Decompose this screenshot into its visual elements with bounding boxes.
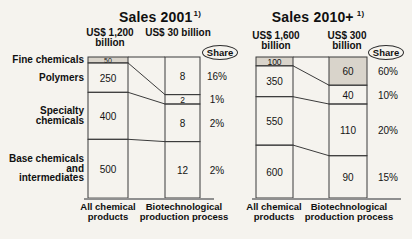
- share-value: 60%: [378, 66, 398, 77]
- share-value: 15%: [378, 172, 398, 183]
- row-label-line: Fine chemicals: [12, 55, 84, 65]
- row-label-polymers: Polymers: [39, 73, 84, 83]
- segment-value: 550: [266, 116, 283, 127]
- share-value: 16%: [207, 71, 227, 82]
- header-line-2: billion: [64, 38, 156, 48]
- header-line-1: US$ 30 billion: [132, 28, 224, 38]
- row-label-specialty-chemicals: Specialtychemicals: [36, 106, 84, 125]
- flow-connector-line: [128, 139, 165, 141]
- axis-label-line-2: production process: [289, 212, 409, 222]
- segment-value: 8: [180, 118, 186, 129]
- chart-title-text: Sales 2001: [119, 9, 193, 25]
- segment-value: 400: [100, 111, 117, 122]
- share-value: 2%: [210, 165, 225, 176]
- segment-value: 250: [100, 73, 117, 84]
- segment-value: 600: [266, 167, 283, 178]
- flow-connector-line: [293, 66, 329, 85]
- segment-value: 90: [342, 172, 354, 183]
- share-value: 10%: [378, 90, 398, 101]
- share-badge-2010: Share: [368, 45, 404, 60]
- row-label-line: Polymers: [39, 73, 84, 83]
- header-biotech-2001: US$ 30 billion: [132, 28, 224, 38]
- segment-value: 40: [342, 90, 354, 101]
- row-label-line: chemicals: [36, 116, 84, 126]
- share-value: 1%: [210, 94, 225, 105]
- segment-value: 8: [180, 71, 186, 82]
- chart-title-text: Sales 2010+: [272, 9, 354, 25]
- row-label-fine-chemicals: Fine chemicals: [12, 55, 84, 65]
- footnote-marker: 1): [357, 9, 365, 18]
- row-label-base-chemicals-and-intermediates: Base chemicalsandintermediates: [9, 154, 84, 183]
- row-label-line: intermediates: [9, 173, 84, 183]
- segment-value: 500: [100, 164, 117, 175]
- share-value: 20%: [378, 125, 398, 136]
- flow-connector-line: [128, 63, 165, 95]
- chart-title-2001: Sales 20011): [119, 9, 201, 25]
- flow-connector-line: [293, 145, 329, 156]
- flow-connector-line: [293, 97, 329, 104]
- segment-value: 12: [177, 165, 189, 176]
- share-badge-label: Share: [373, 47, 399, 58]
- footnote-marker: 1): [194, 9, 202, 18]
- chart-canvas: 502504005008281216%1%2%2%100350550600604…: [0, 0, 412, 239]
- segment-value: 110: [340, 125, 356, 136]
- segment-value: 60: [342, 66, 354, 77]
- chart-title-2010: Sales 2010+1): [272, 9, 365, 25]
- share-value: 2%: [210, 118, 225, 129]
- axis-label-biotech-2010: Biotechnological production process: [289, 202, 409, 222]
- segment-value: 350: [266, 76, 283, 87]
- segment-value: 2: [180, 95, 185, 105]
- flow-connector-line: [128, 92, 165, 104]
